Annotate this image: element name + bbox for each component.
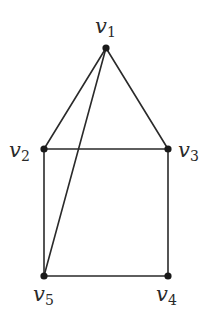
label-v2-sub: 2	[21, 148, 30, 164]
label-v5-sub: 5	[45, 292, 54, 308]
edge-v1-v2	[44, 48, 106, 149]
label-v3: v3	[178, 138, 199, 164]
vertex-v2	[40, 145, 47, 152]
label-v4-sub: 4	[168, 292, 177, 308]
edges	[44, 48, 168, 276]
vertex-v1	[102, 44, 109, 51]
label-v2-main: v	[9, 138, 21, 162]
vertex-v5	[40, 272, 47, 279]
vertices	[40, 44, 171, 279]
label-v3-main: v	[178, 138, 190, 162]
label-v5-main: v	[33, 282, 45, 306]
label-v1-main: v	[95, 14, 107, 38]
edge-v1-v3	[106, 48, 168, 149]
label-v1: v1	[95, 14, 116, 40]
graph-diagram: v1 v2 v3 v4 v5	[0, 0, 214, 321]
label-v5: v5	[33, 282, 54, 308]
edge-v1-v5	[44, 48, 106, 276]
label-v4-main: v	[156, 282, 168, 306]
label-v3-sub: 3	[190, 148, 199, 164]
vertex-v3	[164, 145, 171, 152]
label-v4: v4	[156, 282, 177, 308]
label-v1-sub: 1	[107, 24, 116, 40]
label-v2: v2	[9, 138, 30, 164]
vertex-v4	[164, 272, 171, 279]
